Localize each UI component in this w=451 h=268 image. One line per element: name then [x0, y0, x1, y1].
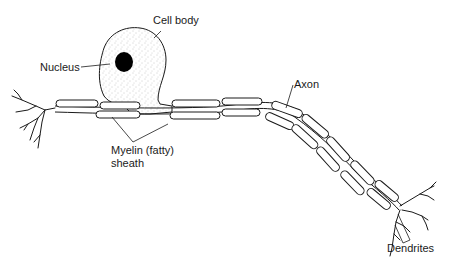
dendrites-left — [12, 90, 55, 148]
neuron-diagram — [0, 0, 451, 268]
dendrites-label: Dendrites — [387, 242, 434, 254]
myelin-sheath-label-line1: Myelin (fatty) — [111, 144, 174, 156]
myelin-sheath-label-line2: sheath — [111, 157, 144, 169]
axon-label: Axon — [294, 78, 319, 90]
myelin-sheath — [56, 98, 400, 211]
cell-body — [99, 28, 172, 114]
cell-body-label: Cell body — [153, 14, 199, 26]
nucleus — [115, 52, 133, 72]
nucleus-label: Nucleus — [40, 61, 80, 73]
